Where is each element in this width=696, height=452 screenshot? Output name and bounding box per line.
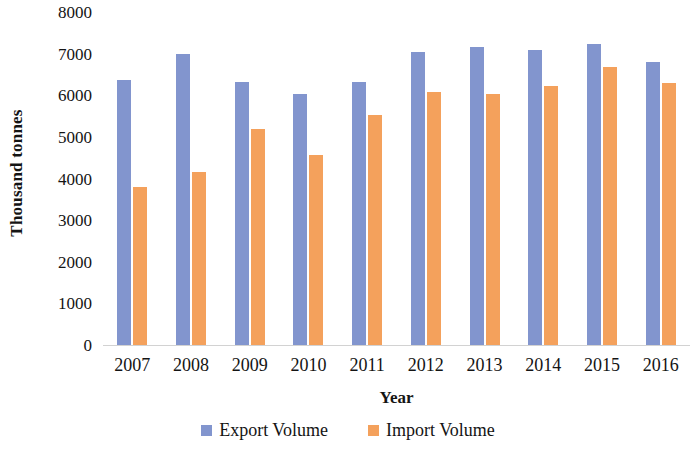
legend-entry[interactable]: Export Volume [201,421,328,439]
y-axis-tick-label: 4000 [58,170,92,187]
bar-group [103,12,162,345]
x-axis-baseline [103,345,690,346]
y-axis-tick-label: 7000 [58,45,92,62]
x-axis-tick-label: 2008 [162,352,221,378]
bar-group [338,12,397,345]
x-axis-tick-labels: 2007200820092010201120122013201420152016 [103,352,690,378]
x-axis-tick-label: 2011 [338,352,397,378]
bar-export-2007 [117,80,131,345]
x-axis-tick-label: 2009 [220,352,279,378]
plot-area [103,12,690,345]
bar-group [279,12,338,345]
bar-export-2016 [646,62,660,345]
legend-label: Import Volume [386,421,495,439]
bar-group [397,12,456,345]
bar-group [220,12,279,345]
bar-import-2007 [133,187,147,345]
bar-import-2009 [251,129,265,345]
bar-group [514,12,573,345]
x-axis-tick-label: 2007 [103,352,162,378]
y-axis-tick-label: 0 [84,337,93,354]
y-axis-title-label: Thousand tonnes [7,109,27,236]
y-axis-tick-label: 6000 [58,87,92,104]
bar-import-2008 [192,172,206,345]
x-axis-tick-label: 2010 [279,352,338,378]
bar-chart-figure: Thousand tonnes 800070006000500040003000… [0,0,696,452]
x-axis-tick-label: 2014 [514,352,573,378]
bar-export-2011 [352,82,366,345]
bar-export-2013 [470,47,484,345]
x-axis-tick-label: 2016 [631,352,690,378]
bar-export-2010 [293,94,307,345]
x-axis-tick-label: 2015 [573,352,632,378]
bar-group [455,12,514,345]
bar-export-2015 [587,44,601,345]
chart-legend: Export VolumeImport Volume [0,421,696,439]
legend-label: Export Volume [219,421,328,439]
y-axis-title: Thousand tonnes [0,0,34,345]
bar-group [631,12,690,345]
bar-import-2011 [368,115,382,345]
bar-import-2012 [427,92,441,345]
y-axis-tick-labels: 800070006000500040003000200010000 [34,0,98,352]
x-axis-tick-label: 2013 [455,352,514,378]
x-axis-tick-label: 2012 [397,352,456,378]
bar-group [573,12,632,345]
y-axis-tick-label: 1000 [58,295,92,312]
x-axis-title: Year [103,388,690,408]
legend-entry[interactable]: Import Volume [368,421,495,439]
bar-export-2009 [235,82,249,345]
y-axis-tick-label: 3000 [58,212,92,229]
y-axis-tick-label: 8000 [58,4,92,21]
bars-layer [103,12,690,345]
legend-swatch-export [201,425,212,436]
bar-group [162,12,221,345]
legend-swatch-import [368,425,379,436]
y-axis-tick-label: 2000 [58,253,92,270]
bar-import-2013 [486,94,500,345]
y-axis-tick-label: 5000 [58,128,92,145]
bar-import-2016 [662,83,676,345]
bar-import-2015 [603,67,617,345]
bar-import-2014 [544,86,558,345]
bar-export-2012 [411,52,425,345]
bar-export-2014 [528,50,542,345]
bar-import-2010 [309,155,323,345]
bar-export-2008 [176,54,190,345]
